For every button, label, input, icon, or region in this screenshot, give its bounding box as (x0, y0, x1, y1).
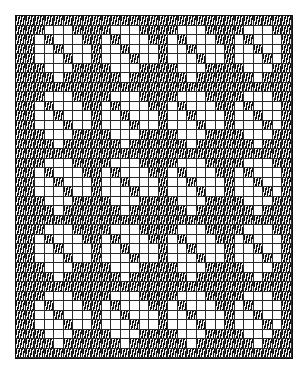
light-cell (140, 121, 150, 131)
dark-cell (225, 73, 235, 83)
dark-cell (263, 83, 273, 93)
light-cell (121, 339, 131, 349)
light-cell (254, 168, 264, 178)
light-cell (130, 35, 140, 45)
light-cell (54, 197, 64, 207)
dark-cell (26, 121, 36, 131)
dark-cell (197, 254, 207, 264)
light-cell (111, 111, 121, 121)
dark-cell (111, 282, 121, 292)
dark-cell (130, 187, 140, 197)
light-cell (187, 254, 197, 264)
light-cell (254, 273, 264, 283)
light-cell (45, 130, 55, 140)
light-cell (187, 73, 197, 83)
dark-cell (16, 263, 26, 273)
light-cell (54, 73, 64, 83)
dark-cell (197, 140, 207, 150)
dark-cell (273, 16, 283, 26)
dark-cell (102, 206, 112, 216)
dark-cell (54, 349, 64, 359)
dark-cell (102, 140, 112, 150)
light-cell (130, 235, 140, 245)
dark-cell (263, 73, 273, 83)
light-cell (254, 140, 264, 150)
light-cell (121, 54, 131, 64)
dark-cell (26, 92, 36, 102)
light-cell (206, 301, 216, 311)
dark-cell (83, 64, 93, 74)
dark-cell (244, 339, 254, 349)
dark-cell (178, 282, 188, 292)
dark-cell (168, 149, 178, 159)
light-cell (54, 187, 64, 197)
light-cell (130, 92, 140, 102)
dark-cell (73, 197, 83, 207)
dark-cell (263, 140, 273, 150)
dark-cell (130, 339, 140, 349)
light-cell (244, 45, 254, 55)
dark-cell (159, 311, 169, 321)
dark-cell (282, 168, 292, 178)
dark-cell (149, 168, 159, 178)
light-cell (111, 26, 121, 36)
dark-cell (159, 292, 169, 302)
dark-cell (26, 149, 36, 159)
light-cell (102, 311, 112, 321)
dark-cell (83, 168, 93, 178)
dark-cell (273, 292, 283, 302)
light-cell (263, 235, 273, 245)
dark-cell (282, 26, 292, 36)
light-cell (263, 311, 273, 321)
light-cell (149, 178, 159, 188)
dark-cell (140, 92, 150, 102)
light-cell (244, 320, 254, 330)
light-cell (168, 102, 178, 112)
dark-cell (168, 159, 178, 169)
dark-cell (149, 16, 159, 26)
dark-cell (35, 339, 45, 349)
light-cell (102, 187, 112, 197)
dark-cell (216, 273, 226, 283)
light-cell (64, 244, 74, 254)
dark-cell (92, 178, 102, 188)
dark-cell (45, 73, 55, 83)
light-cell (73, 311, 83, 321)
light-cell (35, 102, 45, 112)
dark-cell (45, 83, 55, 93)
light-cell (206, 178, 216, 188)
dark-cell (64, 282, 74, 292)
dark-cell (197, 16, 207, 26)
light-cell (187, 64, 197, 74)
dark-cell (178, 273, 188, 283)
dark-cell (273, 225, 283, 235)
light-cell (130, 301, 140, 311)
light-cell (235, 45, 245, 55)
dark-cell (206, 159, 216, 169)
dark-cell (64, 216, 74, 226)
light-cell (168, 168, 178, 178)
light-cell (54, 35, 64, 45)
dark-cell (159, 244, 169, 254)
dark-cell (140, 159, 150, 169)
dark-cell (16, 178, 26, 188)
dark-cell (187, 349, 197, 359)
light-cell (140, 311, 150, 321)
dark-cell (225, 273, 235, 283)
dark-cell (225, 102, 235, 112)
light-cell (54, 130, 64, 140)
light-cell (244, 26, 254, 36)
dark-cell (273, 339, 283, 349)
dark-cell (102, 149, 112, 159)
dark-cell (35, 159, 45, 169)
light-cell (206, 235, 216, 245)
dark-cell (64, 121, 74, 131)
dark-cell (197, 216, 207, 226)
dark-cell (168, 140, 178, 150)
light-cell (35, 301, 45, 311)
dark-cell (16, 254, 26, 264)
dark-cell (16, 140, 26, 150)
dark-cell (64, 149, 74, 159)
light-cell (187, 273, 197, 283)
dark-cell (282, 64, 292, 74)
